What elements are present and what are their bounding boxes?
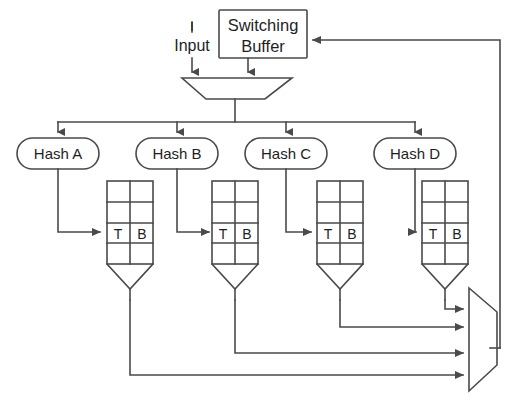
table-c-cell-t: T bbox=[324, 226, 333, 242]
hash-node-a-label: Hash A bbox=[34, 145, 82, 162]
table-b-funnel bbox=[212, 264, 258, 289]
table-d-cell-b: B bbox=[452, 226, 461, 242]
input-multiplexer bbox=[182, 78, 292, 99]
hash-node-b-label: Hash B bbox=[152, 145, 201, 162]
input-tick-label: l bbox=[191, 19, 194, 34]
table-b-cell-t: T bbox=[219, 226, 228, 242]
block-diagram: l Input Switching Buffer Hash A Hash B H… bbox=[0, 0, 527, 410]
table-a-funnel bbox=[107, 264, 153, 289]
table-a-to-mux bbox=[130, 300, 463, 375]
switching-buffer-label-line1: Switching bbox=[228, 16, 299, 34]
output-multiplexer bbox=[469, 288, 497, 391]
hash-d-to-table-d bbox=[415, 169, 416, 232]
switching-buffer-label-line2: Buffer bbox=[241, 37, 285, 55]
hash-a-to-table-a bbox=[58, 169, 100, 232]
table-c-cell-b: B bbox=[347, 226, 356, 242]
table-a-cell-b: B bbox=[137, 226, 146, 242]
hash-node-d-label: Hash D bbox=[390, 145, 440, 162]
table-d-to-mux bbox=[445, 300, 463, 309]
hash-b-to-table-b bbox=[177, 169, 209, 232]
table-a bbox=[107, 181, 153, 264]
diagram-canvas: l Input Switching Buffer Hash A Hash B H… bbox=[0, 0, 527, 410]
feedback-path bbox=[313, 40, 500, 348]
table-d-cell-t: T bbox=[429, 226, 438, 242]
table-b bbox=[212, 181, 258, 264]
table-c-funnel bbox=[317, 264, 363, 289]
hash-node-c-label: Hash C bbox=[261, 145, 311, 162]
table-b-cell-b: B bbox=[242, 226, 251, 242]
hash-c-to-table-c bbox=[286, 169, 311, 232]
table-d bbox=[422, 181, 468, 264]
table-a-cell-t: T bbox=[114, 226, 123, 242]
table-d-funnel bbox=[422, 264, 468, 289]
table-c bbox=[317, 181, 363, 264]
input-label: Input bbox=[174, 37, 210, 54]
